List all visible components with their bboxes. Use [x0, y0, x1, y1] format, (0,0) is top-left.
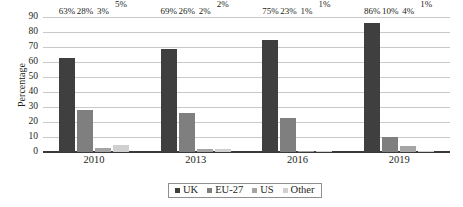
bar-value-label: 3% [97, 7, 109, 16]
bar-chart: Percentage 9080706050403020100 63%28%3%5… [0, 0, 463, 207]
y-axis-tick-label: 80 [0, 27, 38, 37]
x-axis-category-label: 2013 [145, 154, 247, 167]
bar-slot: 3% [95, 17, 111, 152]
bar-group-bars: 63%28%3%5% [59, 17, 129, 152]
legend-item-uk[interactable]: UK [175, 185, 198, 196]
x-axis-category-label: 2010 [43, 154, 145, 167]
y-axis-tick-label: 90 [0, 12, 38, 22]
bar[interactable] [382, 137, 398, 152]
bar-slot: 69% [161, 17, 177, 152]
y-axis-tick-label: 50 [0, 72, 38, 82]
bar-value-label: 28% [77, 7, 94, 16]
legend-item-eu-27[interactable]: EU-27 [207, 185, 243, 196]
legend-item-us[interactable]: US [252, 185, 273, 196]
y-axis-tick-label: 30 [0, 102, 38, 112]
bar-value-label: 63% [59, 7, 76, 16]
bar-value-label: 69% [160, 7, 177, 16]
bar-slot: 4% [400, 17, 416, 152]
bar[interactable] [113, 145, 129, 153]
legend-swatch-icon [207, 188, 212, 193]
y-axis-tick-label: 20 [0, 117, 38, 127]
bar[interactable] [215, 149, 231, 152]
bar[interactable] [316, 151, 332, 153]
y-axis-tick-label: 70 [0, 42, 38, 52]
bar-group: 86%10%4%1% [348, 17, 450, 152]
bar[interactable] [59, 58, 75, 153]
bar-slot: 1% [298, 17, 314, 152]
plot-area: 63%28%3%5%69%26%2%2%75%23%1%1%86%10%4%1% [43, 17, 450, 152]
bar[interactable] [280, 118, 296, 153]
bar[interactable] [364, 23, 380, 152]
legend-label: EU-27 [215, 185, 243, 196]
bar-value-label: 10% [382, 7, 399, 16]
bar-value-label: 4% [402, 7, 414, 16]
bar[interactable] [77, 110, 93, 152]
legend-item-other[interactable]: Other [283, 185, 315, 196]
x-axis-category-label: 2019 [348, 154, 450, 167]
bar-value-label: 1% [420, 0, 432, 9]
chart-legend: UKEU-27USOther [168, 183, 322, 198]
bar-value-label: 23% [280, 7, 297, 16]
bar[interactable] [161, 49, 177, 153]
bar[interactable] [179, 113, 195, 152]
bar-slot: 1% [418, 17, 434, 152]
bar-slot: 5% [113, 17, 129, 152]
legend-label: US [260, 185, 273, 196]
bar-value-label: 1% [300, 7, 312, 16]
y-axis-tick-labels: 9080706050403020100 [0, 17, 38, 152]
bar-value-label: 2% [217, 0, 229, 9]
bar-value-label: 86% [364, 7, 381, 16]
legend-label: UK [183, 185, 198, 196]
legend-label: Other [291, 185, 315, 196]
bar[interactable] [298, 151, 314, 153]
bar[interactable] [262, 40, 278, 153]
x-axis-category-label: 2016 [247, 154, 349, 167]
y-axis-tick-label: 10 [0, 132, 38, 142]
bar[interactable] [197, 149, 213, 152]
bar[interactable] [418, 151, 434, 153]
bar-value-label: 75% [262, 7, 279, 16]
bar-slot: 1% [316, 17, 332, 152]
bar-group: 75%23%1%1% [247, 17, 349, 152]
y-axis-tick-label: 60 [0, 57, 38, 67]
bar-value-label: 1% [318, 0, 330, 9]
bar-slot: 63% [59, 17, 75, 152]
legend-swatch-icon [283, 188, 288, 193]
bar-slot: 23% [280, 17, 296, 152]
legend-swatch-icon [175, 188, 180, 193]
bar-group: 63%28%3%5% [43, 17, 145, 152]
bar-value-label: 26% [178, 7, 195, 16]
bar-slot: 10% [382, 17, 398, 152]
bar-group: 69%26%2%2% [145, 17, 247, 152]
bar-group-bars: 75%23%1%1% [262, 17, 332, 152]
bar-group-bars: 86%10%4%1% [364, 17, 434, 152]
bar[interactable] [400, 146, 416, 152]
bar-slot: 2% [197, 17, 213, 152]
y-axis-tick-label: 40 [0, 87, 38, 97]
bar-groups: 63%28%3%5%69%26%2%2%75%23%1%1%86%10%4%1% [43, 17, 450, 152]
bar[interactable] [95, 148, 111, 153]
bar-slot: 86% [364, 17, 380, 152]
legend-swatch-icon [252, 188, 257, 193]
bar-value-label: 2% [199, 7, 211, 16]
bar-group-bars: 69%26%2%2% [161, 17, 231, 152]
bar-slot: 75% [262, 17, 278, 152]
bar-slot: 2% [215, 17, 231, 152]
bar-slot: 26% [179, 17, 195, 152]
x-axis-category-labels: 2010201320162019 [43, 154, 450, 167]
bar-value-label: 5% [115, 0, 127, 9]
y-axis-tick-label: 0 [0, 147, 38, 157]
bar-slot: 28% [77, 17, 93, 152]
